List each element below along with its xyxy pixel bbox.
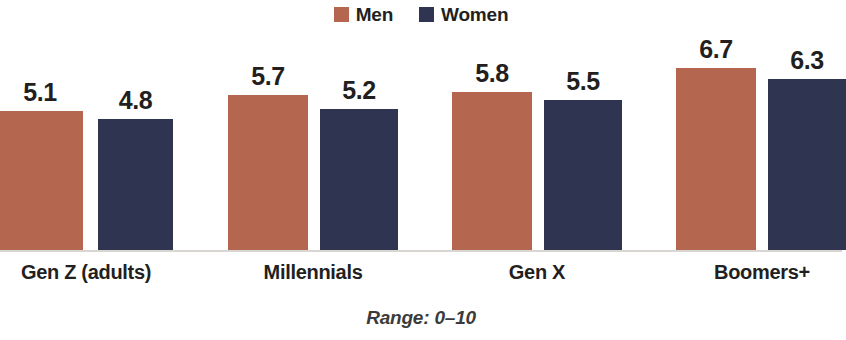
bar-men-gen-x: 5.8 — [452, 92, 532, 250]
bar-rect — [98, 119, 173, 250]
bar-men-millennials: 5.7 — [228, 95, 308, 250]
bar-rect — [320, 109, 398, 250]
bar-rect — [452, 92, 532, 250]
bar-value-label: 5.8 — [475, 61, 508, 86]
category-label-boomers: Boomers+ — [714, 262, 810, 282]
category-label-millennials: Millennials — [264, 262, 363, 282]
category-label-gen-z-adults: Gen Z (adults) — [21, 262, 151, 282]
bar-value-label: 4.8 — [119, 88, 152, 113]
bar-men-gen-z-adults: 5.1 — [0, 111, 83, 250]
axis-baseline — [0, 250, 842, 252]
bar-rect — [676, 68, 756, 250]
bar-rect — [228, 95, 308, 250]
bar-value-label: 5.7 — [251, 64, 284, 89]
bar-value-label: 6.3 — [790, 48, 823, 73]
bar-women-gen-x: 5.5 — [544, 100, 622, 250]
bar-women-gen-z-adults: 4.8 — [98, 119, 173, 250]
category-label-gen-x: Gen X — [509, 262, 565, 282]
bar-value-label: 5.1 — [23, 80, 56, 105]
bar-value-label: 5.5 — [566, 69, 599, 94]
bar-women-millennials: 5.2 — [320, 109, 398, 250]
chart-footnote: Range: 0–10 — [0, 308, 842, 327]
bar-men-boomers: 6.7 — [676, 68, 756, 250]
bar-value-label: 6.7 — [699, 37, 732, 62]
bar-rect — [0, 111, 83, 250]
bar-rect — [768, 79, 846, 250]
bar-women-boomers: 6.3 — [768, 79, 846, 250]
bar-rect — [544, 100, 622, 250]
bar-value-label: 5.2 — [342, 78, 375, 103]
